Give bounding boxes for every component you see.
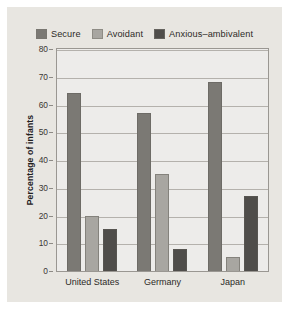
legend-label: Secure [51, 29, 81, 39]
bar [85, 216, 99, 272]
y-axis-tick-label: 70 [39, 72, 48, 82]
y-axis-tick-labels: 01020304050607080 [7, 48, 53, 272]
bar [155, 174, 169, 271]
bar [226, 257, 240, 271]
x-axis-tick-label: Germany [144, 277, 181, 287]
bar-group [198, 49, 268, 271]
y-axis-tick-label: 10 [39, 238, 48, 248]
y-axis-tick-label: 80 [39, 44, 48, 54]
y-axis-tick-mark [49, 216, 53, 217]
legend-swatch-icon [92, 29, 103, 39]
y-axis-tick-label: 30 [39, 183, 48, 193]
bar [244, 196, 258, 271]
bar-group [57, 49, 127, 271]
bar [137, 113, 151, 271]
bar-groups [57, 49, 268, 271]
x-axis-tick-label: Japan [221, 277, 246, 287]
x-axis-tick-label: United States [65, 277, 119, 287]
legend-label: Avoidant [107, 29, 143, 39]
y-axis-tick-mark [49, 132, 53, 133]
y-axis-tick-mark [49, 243, 53, 244]
y-axis-tick-mark [49, 188, 53, 189]
y-axis-tick-mark [49, 77, 53, 78]
legend-swatch-icon [154, 29, 165, 39]
bar-group [127, 49, 197, 271]
y-axis-tick-label: 40 [39, 155, 48, 165]
bar [208, 82, 222, 271]
bar [173, 249, 187, 271]
y-axis-tick-mark [49, 49, 53, 50]
y-axis-tick-mark [49, 271, 53, 272]
legend-entry: Secure [36, 29, 81, 39]
chart-figure: SecureAvoidantAnxious–ambivalent Percent… [7, 7, 282, 302]
y-axis-tick-mark [49, 160, 53, 161]
legend-label: Anxious–ambivalent [169, 29, 253, 39]
bar [67, 93, 81, 271]
y-axis-tick-mark [49, 105, 53, 106]
y-axis-tick-label: 60 [39, 100, 48, 110]
y-axis-tick-label: 0 [43, 266, 48, 276]
legend-entry: Avoidant [92, 29, 143, 39]
x-axis-tick-labels: United StatesGermanyJapan [57, 277, 268, 291]
legend-swatch-icon [36, 29, 47, 39]
legend-entry: Anxious–ambivalent [154, 29, 253, 39]
y-axis-tick-label: 50 [39, 127, 48, 137]
y-axis-tick-label: 20 [39, 211, 48, 221]
chart-legend: SecureAvoidantAnxious–ambivalent [7, 26, 282, 42]
bar [103, 229, 117, 271]
